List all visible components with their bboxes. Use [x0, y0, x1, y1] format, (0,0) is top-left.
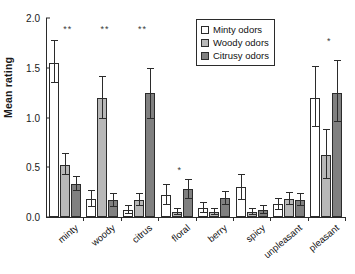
error-cap [211, 208, 218, 209]
error-cap [110, 193, 117, 194]
error-cap [297, 193, 304, 194]
x-tick-mark [308, 217, 309, 221]
y-axis-title: Mean rating [2, 57, 14, 118]
y-tick-label: 1.5 [26, 62, 40, 73]
error-cap [334, 60, 341, 61]
legend-swatch [201, 52, 209, 60]
error-cap [136, 193, 143, 194]
x-axis-label: woody [89, 222, 117, 248]
error-cap [163, 184, 170, 185]
legend-swatch [201, 26, 209, 34]
legend-label: Woody odors [213, 37, 269, 48]
error-bar [315, 66, 316, 128]
error-cap [260, 205, 267, 206]
legend: Minty odorsWoody odorsCitrusy odors [196, 19, 275, 66]
legend-item: Minty odors [201, 23, 269, 36]
error-cap [62, 153, 69, 154]
y-tick-label: 2.0 [26, 13, 40, 24]
error-bar [113, 193, 114, 207]
error-bar [188, 179, 189, 199]
bar-chart: Mean rating 0.00.51.01.52.0 ******** min… [0, 0, 355, 274]
error-bar [91, 190, 92, 207]
error-cap [147, 118, 154, 119]
error-cap [174, 214, 181, 215]
bar-group [161, 18, 193, 217]
bar-group [273, 18, 305, 217]
error-bar [102, 76, 103, 120]
error-cap [238, 174, 245, 175]
error-bar [139, 193, 140, 206]
error-bar [166, 184, 167, 205]
bar-group [310, 18, 342, 217]
x-axis-label: berry [206, 222, 230, 244]
error-cap [125, 205, 132, 206]
significance-marker: * [327, 36, 332, 46]
error-cap [125, 213, 132, 214]
legend-item: Woody odors [201, 36, 269, 49]
error-bar [177, 208, 178, 215]
error-cap [62, 174, 69, 175]
error-bar [326, 129, 327, 179]
x-axis-label: spicy [243, 222, 267, 244]
error-bar [241, 174, 242, 200]
error-cap [260, 213, 267, 214]
error-bar [300, 193, 301, 206]
x-tick-mark [196, 217, 197, 221]
error-bar [76, 176, 77, 191]
x-axis-label: pleasant [307, 222, 342, 254]
legend-label: Minty odors [213, 24, 262, 35]
error-cap [110, 206, 117, 207]
error-cap [222, 204, 229, 205]
error-bar [252, 208, 253, 215]
error-bar [289, 192, 290, 205]
x-axis-label: unpleasant [261, 222, 304, 260]
bar [49, 63, 59, 217]
error-cap [163, 204, 170, 205]
error-cap [51, 82, 58, 83]
error-cap [249, 208, 256, 209]
error-cap [286, 192, 293, 193]
significance-marker: ** [101, 24, 110, 34]
y-tick-label: 0.5 [26, 162, 40, 173]
error-cap [88, 190, 95, 191]
x-tick-mark [233, 217, 234, 221]
error-bar [337, 60, 338, 123]
error-cap [200, 202, 207, 203]
error-bar [128, 205, 129, 214]
error-cap [211, 214, 218, 215]
bar-group [49, 18, 81, 217]
error-cap [185, 179, 192, 180]
bar-group [86, 18, 118, 217]
significance-marker: * [178, 165, 183, 175]
error-cap [136, 205, 143, 206]
error-cap [275, 198, 282, 199]
error-cap [323, 129, 330, 130]
x-axis-label: floral [169, 222, 192, 244]
error-cap [88, 206, 95, 207]
error-cap [185, 198, 192, 199]
error-cap [323, 178, 330, 179]
error-cap [174, 208, 181, 209]
error-cap [222, 191, 229, 192]
error-cap [51, 40, 58, 41]
significance-marker: ** [138, 24, 147, 34]
error-cap [275, 209, 282, 210]
error-cap [286, 204, 293, 205]
error-bar [225, 191, 226, 205]
error-bar [214, 208, 215, 215]
error-bar [150, 68, 151, 120]
error-cap [297, 205, 304, 206]
bar-group [123, 18, 155, 217]
error-cap [312, 66, 319, 67]
x-tick-mark [345, 217, 346, 221]
error-cap [99, 76, 106, 77]
x-tick-mark [83, 217, 84, 221]
error-cap [147, 68, 154, 69]
error-cap [312, 126, 319, 127]
error-bar [65, 153, 66, 175]
error-cap [249, 214, 256, 215]
error-cap [334, 121, 341, 122]
y-tick-label: 1.0 [26, 112, 40, 123]
x-tick-mark [270, 217, 271, 221]
legend-label: Citrusy odors [213, 50, 269, 61]
